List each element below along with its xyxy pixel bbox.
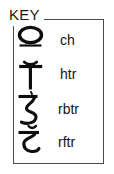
- devanagari-oval-glyph: [16, 22, 54, 58]
- legend-entry-row: ch: [16, 22, 102, 58]
- legend-entry-label: htr: [60, 67, 76, 81]
- devanagari-ezh-hook-glyph: [16, 91, 54, 127]
- devanagari-curved-hook-glyph: [16, 124, 54, 160]
- legend-entry-label: rbtr: [58, 102, 79, 116]
- key-legend-figure: KEY ch htr rbtr: [0, 0, 114, 174]
- legend-entry-label: ch: [60, 33, 75, 47]
- devanagari-t-bar-glyph: [16, 56, 54, 92]
- key-title: KEY: [9, 7, 40, 22]
- legend-entry-row: rbtr: [16, 91, 102, 127]
- legend-entry-label: rftr: [58, 135, 75, 149]
- legend-entry-row: htr: [16, 56, 102, 92]
- legend-entry-row: rftr: [16, 124, 102, 160]
